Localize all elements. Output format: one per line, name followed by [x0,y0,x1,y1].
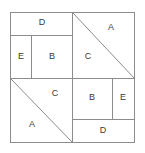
dissection-diagram: D E B A C C A B E D [0,0,145,153]
region-label-tr-c: C [85,51,92,61]
region-label-br-b: B [89,92,95,102]
region-label-bl-a: A [29,119,35,129]
region-label-tr-a: A [108,22,114,32]
region-label-tl-d: D [39,17,46,27]
region-label-tl-b: B [49,51,55,61]
region-label-br-d: D [100,125,107,135]
region-label-tl-e: E [18,51,24,61]
region-label-br-e: E [120,92,126,102]
region-label-bl-c: C [52,88,59,98]
square-dissection-figure: D E B A C C A B E D [0,0,145,153]
